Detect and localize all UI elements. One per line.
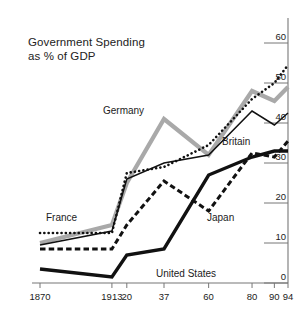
y-axis-tick-label: 40 (264, 111, 286, 122)
line-chart-plot (0, 0, 300, 317)
y-axis-tick-label: 10 (264, 231, 286, 242)
series-label-japan: Japan (207, 212, 234, 223)
x-axis-tick-label: 60 (189, 291, 229, 302)
x-axis-tick-label: 20 (107, 291, 147, 302)
y-axis-tick-label: 0 (264, 271, 286, 282)
y-axis-tick-label: 30 (264, 151, 286, 162)
y-axis-tick-label: 50 (264, 71, 286, 82)
series-line-united-states (40, 151, 288, 277)
series-label-france: France (46, 212, 77, 223)
series-line-germany (40, 87, 288, 243)
y-axis-tick-label: 60 (264, 31, 286, 42)
x-axis-tick-label: 37 (144, 291, 184, 302)
x-axis-tick-label: 94 (268, 291, 300, 302)
chart-series (40, 65, 288, 277)
x-axis-tick-label: 1870 (20, 291, 60, 302)
chart-container: Government Spending as % of GDP 01020304… (0, 0, 300, 317)
series-label-britain: Britain (222, 136, 250, 147)
series-line-britain (40, 111, 288, 245)
y-axis-tick-label: 20 (264, 191, 286, 202)
series-label-germany: Germany (103, 105, 144, 116)
series-label-united-states: United States (156, 268, 216, 279)
